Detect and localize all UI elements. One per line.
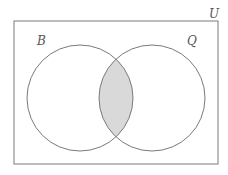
universe-label: U [209,8,219,20]
set-q-label: Q [187,35,197,47]
venn-diagram [0,0,228,175]
set-b-label: B [37,35,46,47]
